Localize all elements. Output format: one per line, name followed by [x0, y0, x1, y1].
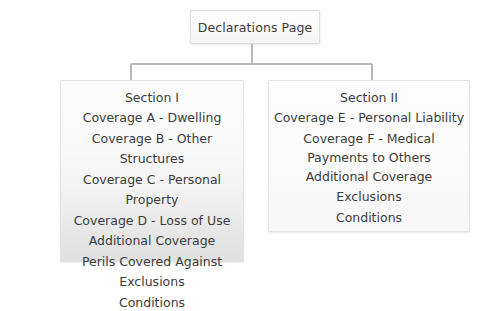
section-2-item: Conditions [269, 208, 469, 229]
section-2-item: Coverage F - Medical Payments to Others [269, 129, 469, 167]
section-1-item: Exclusions [61, 272, 243, 293]
node-declarations-page-label: Declarations Page [198, 20, 313, 35]
section-1-item: Coverage C - Personal Property [61, 170, 243, 211]
section-1-item: Perils Covered Against [61, 252, 243, 273]
section-2-item: Additional Coverage [269, 167, 469, 188]
section-1-item: Coverage D - Loss of Use [61, 211, 243, 232]
section-1-item: Conditions [61, 293, 243, 311]
section-2-item: Coverage E - Personal Liability [269, 108, 469, 129]
section-2-item: Exclusions [269, 187, 469, 208]
section-2-title: Section II [340, 88, 398, 108]
section-1-item: Coverage A - Dwelling [61, 108, 243, 129]
node-section-2[interactable]: Section II Coverage E - Personal Liabili… [268, 80, 470, 232]
node-declarations-page[interactable]: Declarations Page [190, 10, 320, 44]
node-section-1[interactable]: Section I Coverage A - Dwelling Coverage… [60, 80, 244, 262]
section-1-item: Additional Coverage [61, 231, 243, 252]
section-1-title: Section I [125, 88, 179, 108]
section-1-item: Coverage B - Other Structures [61, 129, 243, 170]
